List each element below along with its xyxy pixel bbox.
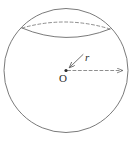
radius-label: r [85, 52, 89, 63]
sphere-diagram-canvas [0, 0, 133, 141]
radius-label-leader-line [70, 55, 84, 68]
center-point-label: O [59, 73, 67, 84]
cap-front-arc [22, 28, 110, 38]
sphere-diagram-figure: O r [0, 0, 133, 141]
cap-back-arc [22, 22, 110, 29]
